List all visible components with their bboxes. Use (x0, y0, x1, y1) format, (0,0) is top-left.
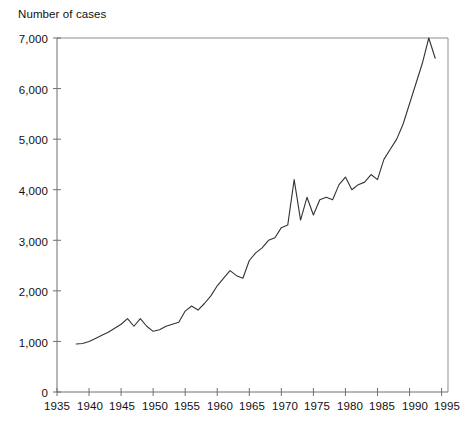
plot-area (0, 0, 465, 425)
data-series-line (76, 38, 435, 344)
chart-figure: Number of cases 7,000 6,000 5,000 4,000 … (0, 0, 465, 425)
plot-frame (57, 38, 448, 392)
